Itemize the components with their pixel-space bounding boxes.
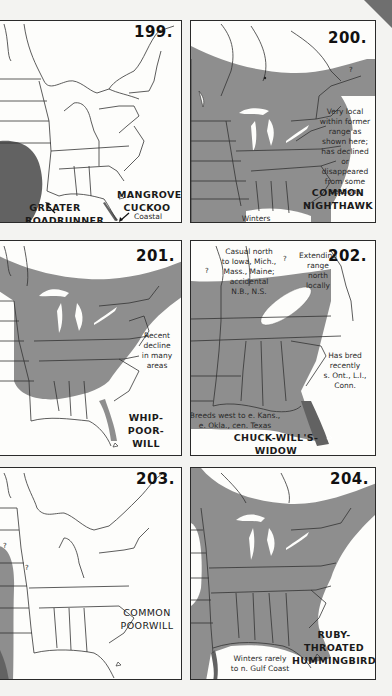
uncertain-range-marker: ?: [349, 66, 353, 74]
species-name-whip-poor-will: WHIP-POOR- WILL: [111, 411, 181, 450]
map-number: 204.: [330, 470, 369, 488]
uncertain-range-marker: ?: [205, 267, 209, 275]
range-note-casual-north: Casual north to Iowa, Mich., Mass., Main…: [219, 247, 279, 297]
range-note-has-bred: Has bred recently s. Ont., L.I., Conn.: [319, 351, 371, 391]
winter-range-note: Winters rarely to n. Gulf Coast: [227, 654, 293, 674]
map-panel-199: 199. GREATER ROADRUNNER Extending range …: [0, 20, 182, 223]
range-note-decline: Very local within former range as shown …: [317, 107, 373, 197]
uncertain-range-marker: ?: [283, 255, 287, 263]
map-number: 200.: [328, 29, 367, 47]
map-panel-201: 201. Recent decline in many areas WHIP-P…: [0, 240, 182, 456]
range-note-breeds-west: Breeds west to e. Kans., e. Okla., cen. …: [190, 411, 281, 431]
uncertain-range-marker: ?: [3, 542, 7, 550]
range-note-recent-decline: Recent decline in many areas: [137, 331, 177, 371]
map-panel-203: 203. ? ? COMMON POORWILL: [0, 467, 182, 680]
map-number: 203.: [136, 470, 175, 488]
species-name-mangrove-cuckoo: MANGROVE CUCKOO: [117, 188, 177, 214]
species-name-greater-roadrunner: GREATER ROADRUNNER: [25, 201, 85, 223]
map-number: 201.: [136, 247, 175, 265]
map-number: 199.: [134, 23, 173, 41]
map-panel-202: 202. ? ? Casual north to Iowa, Mich., Ma…: [190, 240, 376, 456]
species-name-ruby-throated-hummingbird: RUBY-THROATED HUMMINGBIRD: [291, 628, 376, 667]
winter-range-note: Winters S. America: [231, 214, 281, 223]
map-panel-200: 200. ? Very local within former range as…: [190, 20, 376, 223]
map-panel-204: 204. RUBY-THROATED HUMMINGBIRD Winters r…: [190, 467, 376, 680]
species-name-common-poorwill: COMMON POORWILL: [117, 606, 177, 632]
eastern-us-map: [0, 468, 182, 680]
range-note-mangrove-cuckoo: Coastal mangroves: [123, 212, 173, 223]
species-name-common-nighthawk: COMMON NIGHTHAWK: [303, 186, 373, 212]
uncertain-range-marker: ?: [25, 564, 29, 572]
species-name-chuck-wills-widow: CHUCK-WILL'S- WIDOW: [231, 431, 321, 456]
range-note-extending-north: Extending range north locally: [297, 251, 339, 291]
